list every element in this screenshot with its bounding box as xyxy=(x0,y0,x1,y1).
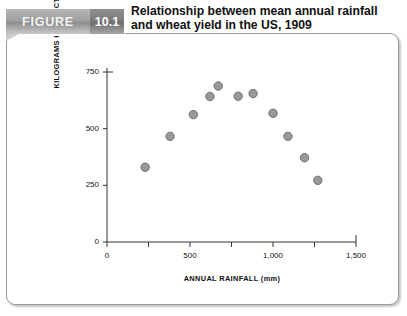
figure-card: FIGURE 10.1 Relationship between mean an… xyxy=(0,0,407,316)
data-point xyxy=(284,132,292,140)
figure-title-line-2: and wheat yield in the US, 1909 xyxy=(131,18,397,32)
data-point xyxy=(189,110,197,118)
data-point xyxy=(214,82,222,90)
data-point xyxy=(141,163,149,171)
data-point xyxy=(166,132,174,140)
y-tick-label: 750 xyxy=(73,67,99,76)
y-tick-label: 250 xyxy=(73,180,99,189)
data-point xyxy=(249,89,257,97)
data-point xyxy=(314,176,322,184)
x-tick-label: 1,500 xyxy=(336,251,376,260)
data-point xyxy=(206,92,214,100)
figure-banner-number-box: 10.1 xyxy=(90,9,124,34)
x-tick-label: 500 xyxy=(170,251,210,260)
y-tick-label: 0 xyxy=(73,237,99,246)
plot-svg xyxy=(0,0,407,316)
scatter-plot: KILOGRAMS PER HECTARE ANNUAL RAINFALL (m… xyxy=(0,0,407,316)
data-point xyxy=(269,109,277,117)
data-point xyxy=(300,153,308,161)
x-tick-label: 1,000 xyxy=(253,251,293,260)
figure-banner-label: FIGURE xyxy=(22,15,74,29)
figure-banner: FIGURE 10.1 xyxy=(6,9,124,34)
data-point xyxy=(234,92,242,100)
x-axis-label: ANNUAL RAINFALL (mm) xyxy=(107,274,357,283)
x-tick-label: 0 xyxy=(87,251,127,260)
figure-title-line-1: Relationship between mean annual rainfal… xyxy=(131,4,397,18)
figure-banner-label-box: FIGURE xyxy=(6,9,90,34)
figure-title: Relationship between mean annual rainfal… xyxy=(131,4,397,33)
figure-banner-number: 10.1 xyxy=(95,15,119,29)
y-tick-label: 500 xyxy=(73,124,99,133)
